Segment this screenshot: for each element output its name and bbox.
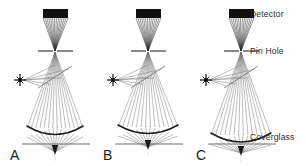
- ray-illumination: [210, 69, 255, 80]
- source-core: [111, 78, 115, 82]
- ray-imaging: [55, 52, 79, 128]
- ray-imaging: [148, 52, 173, 127]
- ray-imaging: [148, 52, 169, 127]
- objective-lens: [27, 126, 83, 135]
- panel-label-C: C: [196, 147, 206, 163]
- ray-imaging: [55, 52, 70, 128]
- ray-illumination: [24, 65, 55, 80]
- diagram-canvas: ABC DetectorPin HoleCoverglass: [0, 0, 306, 166]
- panel-A: A: [10, 9, 90, 163]
- ray-imaging: [241, 52, 257, 135]
- ray-objective: [36, 134, 55, 152]
- ray-imaging: [220, 52, 241, 135]
- ray-detector: [231, 18, 241, 51]
- optical-ray-diagram: ABC DetectorPin HoleCoverglass: [0, 0, 306, 166]
- imaging-cone-rays: [27, 52, 83, 128]
- detector-cone-rays: [136, 18, 161, 51]
- ray-objective: [241, 141, 262, 153]
- ray-imaging: [216, 52, 241, 135]
- label-detector: Detector: [250, 9, 284, 19]
- ray-imaging: [118, 52, 148, 127]
- ray-imaging: [241, 52, 262, 135]
- label-pinhole: Pin Hole: [250, 46, 284, 56]
- ray-detector: [148, 18, 161, 51]
- ray-imaging: [225, 52, 241, 135]
- ray-imaging: [148, 52, 164, 127]
- right-labels-layer: DetectorPin HoleCoverglass: [250, 9, 295, 142]
- ray-imaging: [31, 52, 55, 128]
- point-light-source: [200, 74, 212, 86]
- panel-label-A: A: [10, 147, 20, 163]
- ray-detector: [138, 18, 148, 51]
- ray-objective: [127, 133, 148, 147]
- ray-illumination: [24, 80, 40, 86]
- imaging-cone-rays: [211, 52, 271, 135]
- ray-imaging: [40, 52, 55, 128]
- ray-imaging: [211, 52, 241, 135]
- ray-detector: [45, 18, 55, 51]
- ray-objective: [148, 133, 169, 147]
- ray-imaging: [123, 52, 148, 127]
- objective-lens: [118, 125, 178, 134]
- ray-objective: [211, 145, 241, 153]
- ray-detector: [55, 18, 68, 51]
- source-core: [18, 78, 22, 82]
- ray-imaging: [148, 52, 178, 127]
- point-light-source: [107, 74, 119, 86]
- panels-layer: ABC: [10, 9, 276, 163]
- ray-imaging: [132, 52, 148, 127]
- ray-illumination: [117, 80, 143, 84]
- label-coverglass: Coverglass: [250, 132, 295, 142]
- ray-imaging: [241, 52, 266, 135]
- panel-label-B: B: [103, 147, 112, 163]
- detector-box: [136, 9, 161, 18]
- ray-illumination: [210, 80, 226, 86]
- imaging-cone-rays: [118, 52, 178, 127]
- ray-imaging: [36, 52, 55, 128]
- source-core: [204, 78, 208, 82]
- ray-objective: [220, 141, 241, 153]
- detector-box: [43, 9, 68, 18]
- ray-objective: [55, 134, 74, 152]
- ray-imaging: [55, 52, 74, 128]
- point-light-source: [14, 74, 26, 86]
- ray-illumination: [210, 65, 241, 80]
- detector-cone-rays: [43, 18, 68, 51]
- ray-imaging: [27, 52, 55, 128]
- ray-illumination: [117, 65, 148, 80]
- ray-objective: [118, 136, 148, 147]
- ray-illumination: [117, 80, 133, 86]
- ray-imaging: [55, 52, 83, 128]
- panel-B: B: [103, 9, 183, 163]
- ray-imaging: [241, 52, 271, 135]
- ray-imaging: [127, 52, 148, 127]
- ray-objective: [148, 136, 178, 147]
- ray-objective: [241, 145, 271, 153]
